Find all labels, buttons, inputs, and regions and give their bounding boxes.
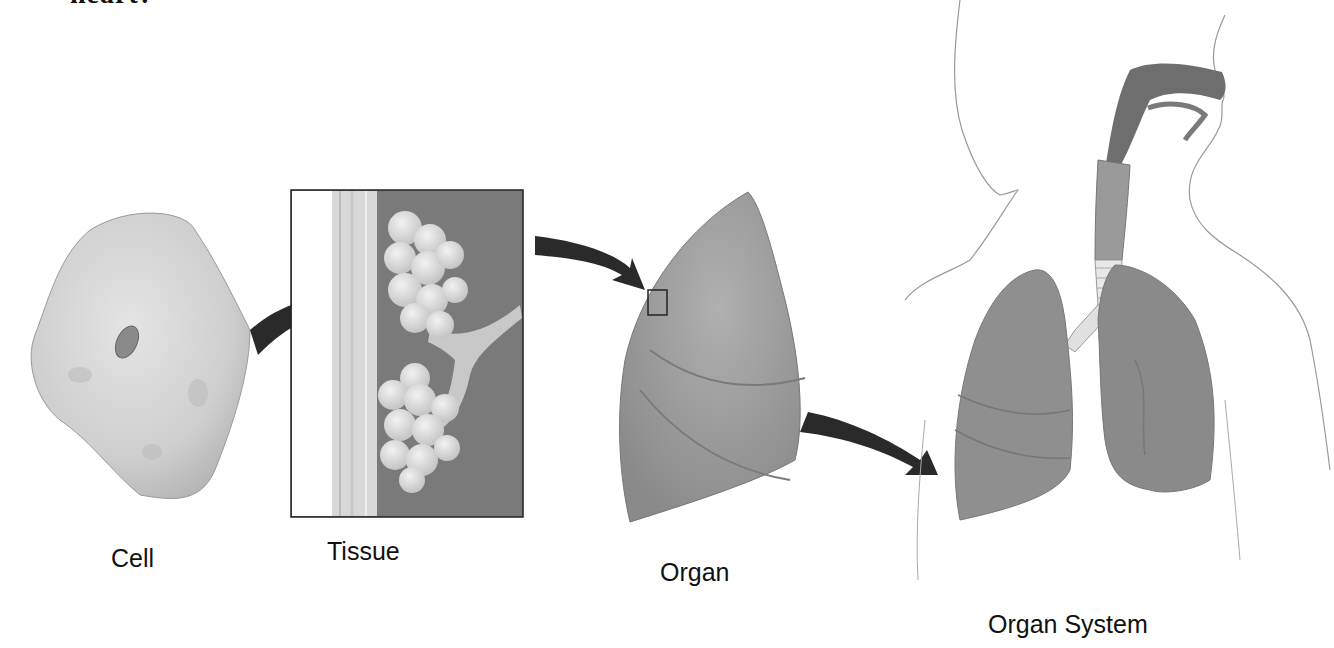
arrow-organ-to-system: [800, 412, 938, 475]
respiratory-system-icon: [905, 0, 1330, 580]
levels-of-organization-diagram: [0, 0, 1334, 648]
cell-icon: [31, 213, 250, 498]
label-tissue: Tissue: [327, 537, 400, 566]
arrow-tissue-to-organ: [535, 236, 645, 290]
label-organ: Organ: [660, 558, 729, 587]
lung-icon: [620, 192, 805, 522]
label-organ-system: Organ System: [988, 610, 1148, 639]
alveoli-tissue-icon: [291, 190, 523, 517]
label-cell: Cell: [111, 544, 154, 573]
